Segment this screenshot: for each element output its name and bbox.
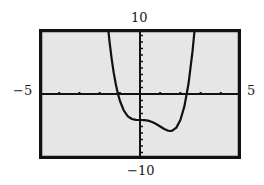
y-max-label: 10 [131,11,148,24]
plot-area [39,29,241,159]
x-min-label: −5 [13,84,32,97]
y-min-label: −10 [127,164,154,177]
x-max-label: 5 [247,84,255,97]
graph-screen [39,29,241,159]
